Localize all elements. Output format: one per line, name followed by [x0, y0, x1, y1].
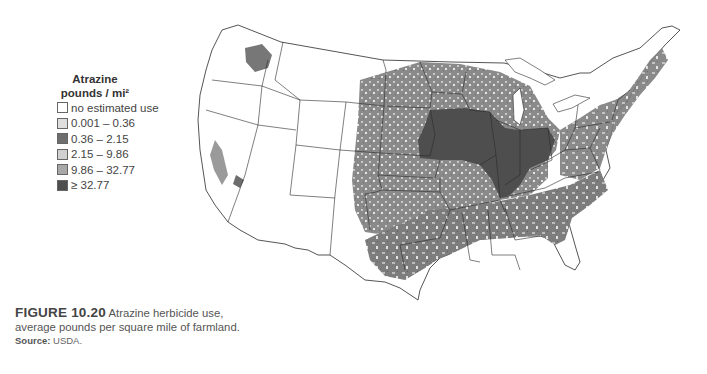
- caption-text-line2: average pounds per square mile of farmla…: [15, 320, 265, 334]
- legend-label: 9.86 – 32.77: [71, 164, 135, 176]
- legend-swatch-no-use: [57, 102, 68, 113]
- legend-item: no estimated use: [57, 100, 187, 116]
- legend-item: ≥ 32.77: [57, 178, 187, 194]
- source-label: Source:: [15, 335, 50, 346]
- caption-text-line1: Atrazine herbicide use,: [108, 307, 223, 319]
- legend-item: 0.001 – 0.36: [57, 116, 187, 132]
- legend-swatch-high: [57, 164, 68, 175]
- legend-item: 9.86 – 32.77: [57, 162, 187, 178]
- legend-label: no estimated use: [71, 102, 159, 114]
- legend-title-line1: Atrazine: [57, 72, 133, 86]
- legend-item: 0.36 – 2.15: [57, 131, 187, 147]
- figure-number: FIGURE 10.20: [15, 305, 106, 320]
- source-value: USDA.: [53, 335, 82, 346]
- legend-title: Atrazine pounds / mi²: [57, 72, 133, 100]
- legend-swatch-low: [57, 133, 68, 144]
- legend-label: 2.15 – 9.86: [71, 148, 129, 160]
- map-legend: Atrazine pounds / mi² no estimated use 0…: [57, 72, 187, 193]
- legend-swatch-very-low: [57, 118, 68, 129]
- legend-title-line2: pounds / mi²: [57, 86, 133, 100]
- figure-caption: FIGURE 10.20 Atrazine herbicide use, ave…: [15, 306, 265, 348]
- legend-label: ≥ 32.77: [71, 179, 109, 191]
- legend-label: 0.36 – 2.15: [71, 133, 129, 145]
- legend-swatch-very-high: [57, 180, 68, 191]
- legend-item: 2.15 – 9.86: [57, 147, 187, 163]
- legend-swatch-medium: [57, 149, 68, 160]
- legend-label: 0.001 – 0.36: [71, 117, 135, 129]
- caption-source: Source: USDA.: [15, 334, 265, 348]
